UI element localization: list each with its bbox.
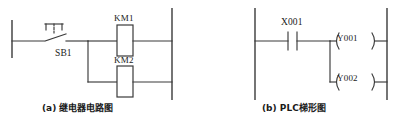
- caption-relay-circuit: (a) 继电器电路图: [42, 104, 113, 113]
- coil-label-km1: KM1: [114, 14, 134, 23]
- plc-ladder-group: [255, 8, 387, 100]
- contact-label-x001: X001: [281, 18, 303, 28]
- caption-plc-ladder: (b) PLC梯形图: [262, 104, 326, 113]
- relay-circuit-group: [12, 8, 172, 100]
- output-label-y002: Y002: [337, 74, 358, 83]
- coil-label-km2: KM2: [114, 56, 134, 65]
- normally-open-contact-icon: [288, 32, 297, 50]
- pushbutton-label-sb1: SB1: [55, 49, 72, 59]
- relay-coil-icon-km2: [117, 66, 133, 97]
- figure-root: SB1 KM1 KM2 X001 Y001 Y002 (a) 继电器电路图 (b…: [0, 0, 401, 128]
- normally-open-pushbutton-icon: [45, 24, 66, 41]
- output-label-y001: Y001: [337, 34, 358, 43]
- relay-coil-icon-km1: [117, 25, 133, 56]
